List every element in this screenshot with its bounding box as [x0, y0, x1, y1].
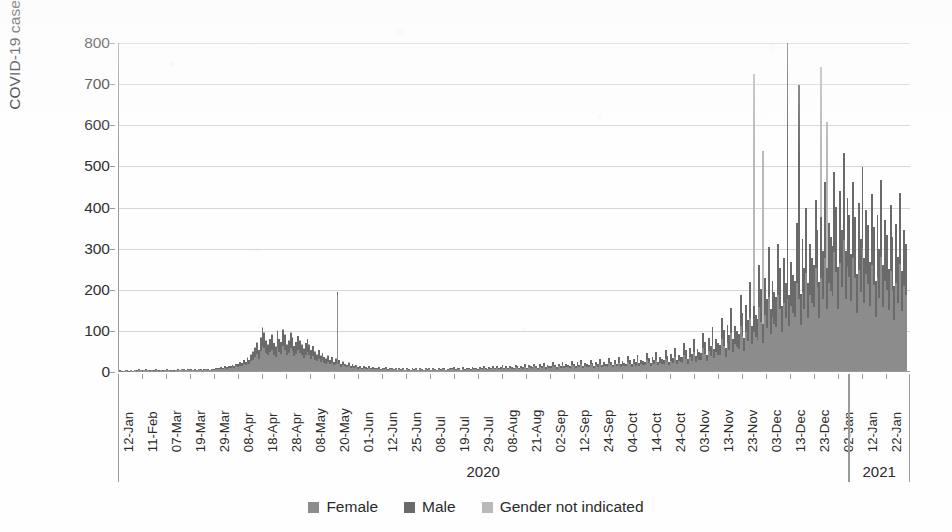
y-tick-mark [110, 43, 115, 44]
y-tick-mark [110, 290, 115, 291]
y-tick-label: 800 [62, 35, 110, 51]
y-tick-label: 0 [62, 364, 110, 380]
y-tick-label: 500 [62, 158, 110, 174]
y-tick-mark [110, 125, 115, 126]
y-tick-label: 200 [62, 282, 110, 298]
chart-figure: COVID-19 cases 8007006005004003002001000… [0, 0, 952, 532]
legend-swatch-icon [308, 502, 319, 513]
y-axis-title: COVID-19 cases [6, 0, 32, 216]
y-tick-mark [110, 166, 115, 167]
legend-swatch-icon [404, 502, 415, 513]
y-tick-label: 100 [62, 323, 110, 339]
legend-item[interactable]: Male [404, 498, 456, 516]
year-group-label: 2021 [848, 463, 910, 480]
y-tick-mark [110, 372, 115, 373]
legend-swatch-icon [482, 502, 493, 513]
y-tick-mark [110, 84, 115, 85]
y-tick-label: 300 [62, 241, 110, 257]
legend-label: Gender not indicated [500, 498, 644, 516]
x-axis-year-groups: 20202021 [118, 374, 910, 482]
bar-segment-male [905, 244, 907, 295]
year-group-label: 2020 [118, 463, 848, 480]
chart-legend: FemaleMaleGender not indicated [0, 498, 952, 516]
bar-segment-female [905, 295, 907, 371]
y-axis-tick-labels: 8007006005004003002001000 [58, 43, 110, 372]
legend-item[interactable]: Female [308, 498, 378, 516]
legend-label: Female [326, 498, 378, 516]
y-tick-mark [110, 249, 115, 250]
y-tick-label: 400 [62, 200, 110, 216]
y-tick-label: 600 [62, 117, 110, 133]
y-tick-label: 700 [62, 76, 110, 92]
y-tick-mark [110, 331, 115, 332]
legend-item[interactable]: Gender not indicated [482, 498, 644, 516]
plot-area [118, 43, 910, 372]
bar-series-container [119, 43, 910, 371]
legend-label: Male [422, 498, 456, 516]
bar-column [905, 43, 907, 371]
y-tick-mark [110, 208, 115, 209]
